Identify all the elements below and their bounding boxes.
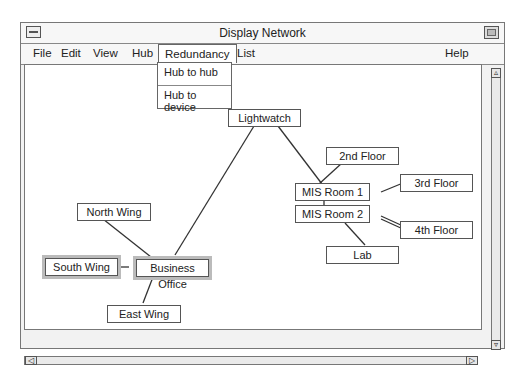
- menu-bar: File Edit View Hub Redundancy List Help: [21, 44, 504, 65]
- vertical-scrollbar[interactable]: [491, 68, 501, 348]
- scroll-right-icon[interactable]: ▷: [466, 356, 478, 365]
- menu-item-hub-to-device[interactable]: Hub to device: [158, 85, 231, 108]
- menu-redundancy[interactable]: Redundancy: [158, 44, 237, 63]
- maximize-button[interactable]: [484, 26, 499, 39]
- menu-view[interactable]: View: [87, 46, 124, 63]
- redundancy-dropdown: Hub to hub Hub to device: [157, 62, 232, 109]
- title-bar: Display Network: [21, 23, 504, 44]
- node-mis-room-2[interactable]: MIS Room 2: [295, 205, 370, 223]
- network-links: [25, 65, 482, 330]
- node-2nd-floor[interactable]: 2nd Floor: [326, 147, 399, 165]
- menu-edit[interactable]: Edit: [55, 46, 87, 63]
- scroll-down-icon[interactable]: ▿: [491, 340, 501, 350]
- node-lab[interactable]: Lab: [326, 246, 399, 264]
- menu-item-hub-to-hub[interactable]: Hub to hub: [158, 63, 231, 85]
- scroll-up-icon[interactable]: ▵: [491, 68, 501, 78]
- window-title: Display Network: [21, 26, 504, 40]
- node-mis-room-1[interactable]: MIS Room 1: [295, 183, 370, 201]
- network-canvas[interactable]: Lightwatch 2nd Floor 3rd Floor MIS Room …: [24, 64, 482, 330]
- node-north-wing[interactable]: North Wing: [77, 203, 151, 221]
- scroll-left-icon[interactable]: ◁: [25, 356, 37, 365]
- menu-file[interactable]: File: [27, 46, 58, 63]
- menu-hub[interactable]: Hub: [126, 46, 159, 63]
- node-east-wing[interactable]: East Wing: [107, 305, 181, 323]
- node-3rd-floor[interactable]: 3rd Floor: [400, 174, 473, 192]
- node-business-office[interactable]: Business Office: [136, 259, 209, 277]
- horizontal-scrollbar[interactable]: [24, 356, 478, 365]
- menu-list[interactable]: List: [231, 46, 261, 63]
- node-south-wing[interactable]: South Wing: [45, 258, 118, 276]
- node-lightwatch[interactable]: Lightwatch: [228, 109, 301, 127]
- menu-help[interactable]: Help: [439, 46, 475, 63]
- node-4th-floor[interactable]: 4th Floor: [400, 221, 473, 239]
